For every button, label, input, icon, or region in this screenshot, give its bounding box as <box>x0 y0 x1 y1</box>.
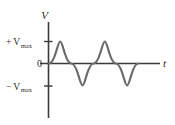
svg-text:−Vmax: −Vmax <box>6 82 33 94</box>
ac-voltage-waveform-figure: V t 0 +Vmax −Vmax <box>0 0 175 125</box>
vmax-symbol-negative: V <box>13 82 20 92</box>
svg-text:+Vmax: +Vmax <box>6 37 33 49</box>
vmax-symbol-positive: V <box>13 37 20 47</box>
positive-sign: + <box>6 37 11 47</box>
negative-vmax-label: −Vmax <box>6 82 33 94</box>
vmax-subscript-negative: max <box>21 86 33 93</box>
y-axis-label: V <box>41 9 49 21</box>
x-axis-label: t <box>163 57 167 69</box>
negative-sign: − <box>6 82 11 92</box>
positive-vmax-label: +Vmax <box>6 37 33 49</box>
waveform-plot: V t 0 +Vmax −Vmax <box>0 0 175 125</box>
zero-tick-label: 0 <box>37 58 42 69</box>
vmax-subscript-positive: max <box>21 42 33 49</box>
